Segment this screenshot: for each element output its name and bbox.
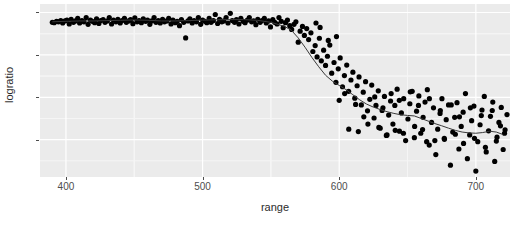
- x-tick-mark: [476, 177, 477, 180]
- x-tick-mark: [203, 177, 204, 180]
- y-tick-mark: [36, 55, 39, 56]
- y-tick-mark: [36, 97, 39, 98]
- y-tick-mark: [36, 12, 39, 13]
- y-axis-title: logratio: [2, 55, 16, 115]
- data-points: [50, 11, 510, 174]
- x-tick-label: 600: [319, 181, 359, 193]
- scatter-plot-svg: [40, 4, 510, 177]
- chart-figure: logratio range 0.00-0.25-0.50-0.75400500…: [0, 0, 517, 228]
- grid-minor-lines: [40, 4, 510, 177]
- x-tick-mark: [66, 177, 67, 180]
- x-tick-label: 500: [183, 181, 223, 193]
- x-tick-label: 400: [46, 181, 86, 193]
- grid-major-lines: [40, 4, 510, 177]
- plot-panel: [40, 4, 510, 177]
- y-tick-mark: [36, 140, 39, 141]
- loess-smoother-line: [52, 20, 503, 135]
- x-tick-label: 700: [456, 181, 496, 193]
- x-tick-mark: [339, 177, 340, 180]
- x-axis-title: range: [40, 200, 510, 214]
